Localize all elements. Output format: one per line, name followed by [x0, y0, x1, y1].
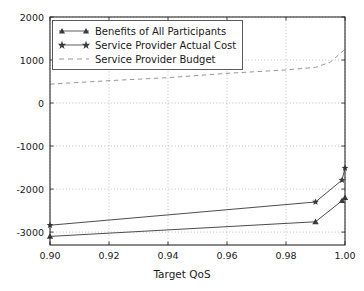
legend-sample-star-icon [57, 38, 91, 52]
x-axis-title: Target QoS [0, 268, 364, 280]
legend-sample-dashed-icon [57, 52, 91, 66]
y-tick-label: -1000 [0, 141, 44, 152]
legend-label-benefits: Benefits of All Participants [91, 26, 226, 37]
y-tick-label: -2000 [0, 184, 44, 195]
x-tick-label: 0.92 [98, 250, 119, 261]
x-tick-label: 0.96 [216, 250, 237, 261]
legend-item-actual-cost: Service Provider Actual Cost [57, 38, 236, 52]
y-tick-label: -3000 [0, 227, 44, 238]
x-tick-label: 0.90 [39, 250, 60, 261]
x-tick-label: 0.98 [275, 250, 296, 261]
chart-figure: 200010000-1000-2000-3000 0.900.920.940.9… [0, 0, 364, 291]
chart-legend: Benefits of All Participants Service Pro… [52, 20, 243, 70]
legend-sample-triangle-icon [57, 24, 91, 38]
legend-label-actual-cost: Service Provider Actual Cost [91, 40, 236, 51]
legend-label-budget: Service Provider Budget [91, 54, 215, 65]
legend-item-benefits: Benefits of All Participants [57, 24, 236, 38]
legend-item-budget: Service Provider Budget [57, 52, 236, 66]
y-tick-label: 0 [0, 98, 44, 109]
y-tick-label: 1000 [0, 55, 44, 66]
x-tick-label: 1.00 [334, 250, 355, 261]
y-tick-label: 2000 [0, 12, 44, 23]
x-tick-label: 0.94 [157, 250, 178, 261]
